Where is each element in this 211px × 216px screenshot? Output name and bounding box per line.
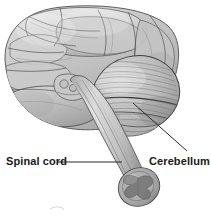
brain-illustration bbox=[0, 0, 211, 216]
brain-anatomy-figure: Spinal cord Cerebellum bbox=[0, 0, 211, 216]
label-spinal-cord: Spinal cord bbox=[6, 155, 67, 167]
label-cerebellum: Cerebellum bbox=[149, 155, 210, 167]
background-artifact bbox=[50, 207, 64, 210]
